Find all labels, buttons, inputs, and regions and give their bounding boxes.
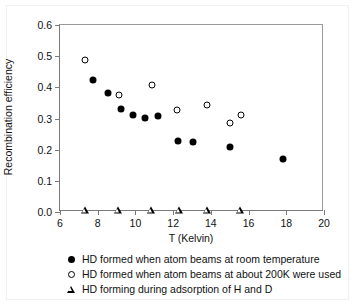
open-triangle-marker <box>236 207 244 214</box>
y-axis-tick <box>55 87 60 88</box>
x-axis-tick <box>98 210 99 215</box>
data-point <box>105 89 112 96</box>
x-axis-tick-label: 20 <box>318 217 330 229</box>
filled-circle-marker <box>141 114 148 121</box>
y-axis-tick-label: 0.2 <box>37 144 52 156</box>
filled-circle-marker <box>90 77 97 84</box>
y-axis-tick-label: 0.5 <box>37 50 52 62</box>
y-axis-tick <box>55 56 60 57</box>
data-point <box>81 56 88 63</box>
legend-item: HD formed when atom beams at about 200K … <box>64 267 334 281</box>
x-axis-tick-label: 14 <box>205 217 217 229</box>
data-point <box>116 91 123 98</box>
x-axis-tick <box>286 210 287 215</box>
y-axis-title: Recombination efficiency <box>2 59 14 176</box>
x-axis-tick-label: 10 <box>130 217 142 229</box>
data-point <box>147 207 155 214</box>
open-circle-marker <box>116 91 123 98</box>
legend-marker <box>64 256 78 263</box>
data-point <box>203 207 211 214</box>
x-axis-tick-label: 16 <box>243 217 255 229</box>
x-axis-tick-label: 12 <box>167 217 179 229</box>
chart-legend: HD formed when atom beams at room temper… <box>64 252 334 297</box>
data-point <box>129 112 136 119</box>
data-point <box>280 156 287 163</box>
data-point <box>174 137 181 144</box>
data-point <box>238 112 245 119</box>
y-axis-tick <box>55 150 60 151</box>
open-circle-marker <box>204 101 211 108</box>
legend-label: HD forming during adsorption of H and D <box>82 283 272 295</box>
y-axis-tick-label: 0.6 <box>37 19 52 31</box>
legend-marker <box>64 271 78 278</box>
x-axis-tick <box>249 210 250 215</box>
data-point <box>226 119 233 126</box>
x-axis-tick-label: 18 <box>280 217 292 229</box>
filled-circle-marker <box>118 105 125 112</box>
filled-circle-marker <box>129 112 136 119</box>
filled-circle-marker <box>155 112 162 119</box>
data-point <box>155 112 162 119</box>
open-triangle-icon <box>67 286 75 293</box>
data-point <box>118 105 125 112</box>
data-point <box>90 77 97 84</box>
legend-marker <box>64 286 78 293</box>
data-point <box>175 207 183 214</box>
data-point <box>149 81 156 88</box>
filled-circle-marker <box>189 139 196 146</box>
plot-area: 0.00.10.20.30.40.50.6 68101214161820 <box>59 24 323 211</box>
x-axis-tick-label: 6 <box>57 217 63 229</box>
x-axis-tick <box>324 210 325 215</box>
filled-circle-marker <box>105 89 112 96</box>
open-circle-marker <box>238 112 245 119</box>
filled-circle-marker <box>280 156 287 163</box>
open-circle-icon <box>68 271 75 278</box>
chart-figure: Recombination efficiency T (Kelvin) 0.00… <box>0 0 357 308</box>
legend-item: HD formed when atom beams at room temper… <box>64 252 334 266</box>
open-circle-marker <box>81 56 88 63</box>
y-axis-tick-label: 0.0 <box>37 206 52 218</box>
open-circle-marker <box>173 106 180 113</box>
legend-label: HD formed when atom beams at room temper… <box>82 253 320 265</box>
data-point <box>173 106 180 113</box>
open-triangle-marker <box>175 207 183 214</box>
data-point <box>189 139 196 146</box>
data-point <box>81 207 89 214</box>
y-axis-tick <box>55 25 60 26</box>
y-axis-tick-label: 0.1 <box>37 175 52 187</box>
open-circle-marker <box>149 81 156 88</box>
y-axis-tick <box>55 119 60 120</box>
data-point <box>114 207 122 214</box>
legend-label: HD formed when atom beams at about 200K … <box>82 268 341 280</box>
x-axis-tick-label: 8 <box>95 217 101 229</box>
filled-circle-icon <box>68 256 75 263</box>
y-axis-tick-label: 0.4 <box>37 81 52 93</box>
open-triangle-marker <box>147 207 155 214</box>
data-point <box>141 114 148 121</box>
x-axis-tick <box>60 210 61 215</box>
open-triangle-marker <box>81 207 89 214</box>
y-axis-tick <box>55 181 60 182</box>
open-circle-marker <box>226 119 233 126</box>
filled-circle-marker <box>174 137 181 144</box>
filled-circle-marker <box>226 144 233 151</box>
x-axis-tick <box>135 210 136 215</box>
x-axis-title: T (Kelvin) <box>169 232 214 244</box>
data-point <box>204 101 211 108</box>
open-triangle-marker <box>203 207 211 214</box>
y-axis-tick-label: 0.3 <box>37 113 52 125</box>
data-point <box>236 207 244 214</box>
open-triangle-marker <box>114 207 122 214</box>
legend-item: HD forming during adsorption of H and D <box>64 282 334 296</box>
data-point <box>226 144 233 151</box>
